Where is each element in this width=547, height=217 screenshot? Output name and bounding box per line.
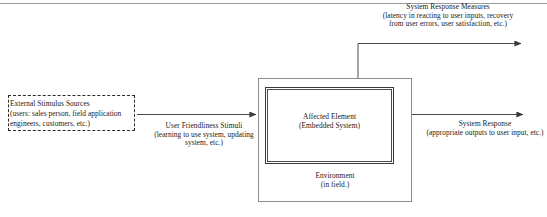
diagram-canvas: External Stimulus Sources (users: sales … <box>0 0 547 217</box>
system-response-label: System Response (appropriate outputs to … <box>424 120 546 137</box>
affected-element-label: Affected Element (Embedded System) <box>265 113 394 130</box>
system-response-measures-label: System Response Measures (latency in rea… <box>350 3 546 29</box>
user-friendliness-stimuli-label: User Friendliness Stimuli (learning to u… <box>145 122 263 148</box>
environment-label: Environment (in field.) <box>270 172 400 189</box>
external-stimulus-sources-label: External Stimulus Sources (users: sales … <box>10 99 133 128</box>
